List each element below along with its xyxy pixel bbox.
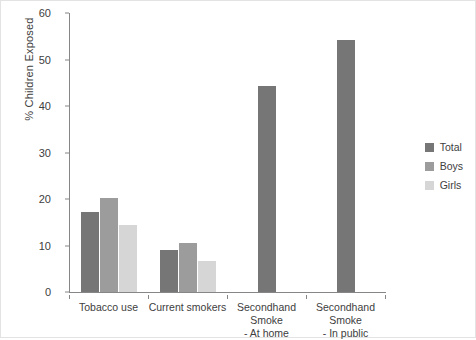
x-tick-label: Tobacco use — [69, 301, 148, 314]
x-tick-mark — [385, 295, 386, 299]
bar — [81, 212, 99, 292]
bar-series-container — [69, 13, 385, 292]
x-axis-line — [69, 292, 386, 293]
bar — [198, 261, 216, 292]
legend-label: Total — [440, 141, 462, 153]
bar-group — [227, 13, 306, 292]
x-tick-mark — [306, 295, 307, 299]
bar-group — [69, 13, 148, 292]
y-tick-label: 30 — [39, 147, 51, 159]
x-tick-label-line: - At home — [227, 327, 306, 340]
bar — [337, 40, 355, 292]
bar-group — [306, 13, 385, 292]
y-tick-label: 20 — [39, 193, 51, 205]
x-tick-label-line: Secondhand Smoke — [227, 301, 306, 327]
legend-item: Girls — [425, 179, 463, 191]
y-tick-label: 0 — [45, 286, 51, 298]
bar — [100, 198, 118, 292]
legend-item: Boys — [425, 160, 463, 172]
x-tick-label: Current smokers — [148, 301, 227, 314]
bar-group — [148, 13, 227, 292]
x-tick-mark — [69, 295, 70, 299]
legend-label: Boys — [440, 160, 463, 172]
plot-area — [69, 13, 385, 292]
y-tick-label: 60 — [39, 7, 51, 19]
y-tick-label: 50 — [39, 54, 51, 66]
x-tick-label: Secondhand Smoke- At home — [227, 301, 306, 340]
x-tick-label-line: - In public — [306, 327, 385, 340]
legend-swatch-icon — [425, 162, 434, 171]
legend-item: Total — [425, 141, 463, 153]
y-axis-ticks: 0102030405060 — [1, 1, 61, 292]
bar — [160, 250, 178, 292]
x-tick-label-line: Tobacco use — [69, 301, 148, 314]
legend: TotalBoysGirls — [425, 141, 463, 198]
bar — [119, 225, 137, 292]
x-tick-mark — [227, 295, 228, 299]
x-tick-label: Secondhand Smoke- In public — [306, 301, 385, 340]
x-tick-label-line: Secondhand Smoke — [306, 301, 385, 327]
x-tick-mark — [148, 295, 149, 299]
x-axis-labels: Tobacco useCurrent smokersSecondhand Smo… — [69, 295, 386, 337]
legend-swatch-icon — [425, 143, 434, 152]
bar — [258, 86, 276, 292]
bar — [179, 243, 197, 292]
x-tick-label-line: Current smokers — [148, 301, 227, 314]
y-tick-label: 10 — [39, 240, 51, 252]
legend-label: Girls — [440, 179, 462, 191]
legend-swatch-icon — [425, 181, 434, 190]
y-tick-label: 40 — [39, 100, 51, 112]
